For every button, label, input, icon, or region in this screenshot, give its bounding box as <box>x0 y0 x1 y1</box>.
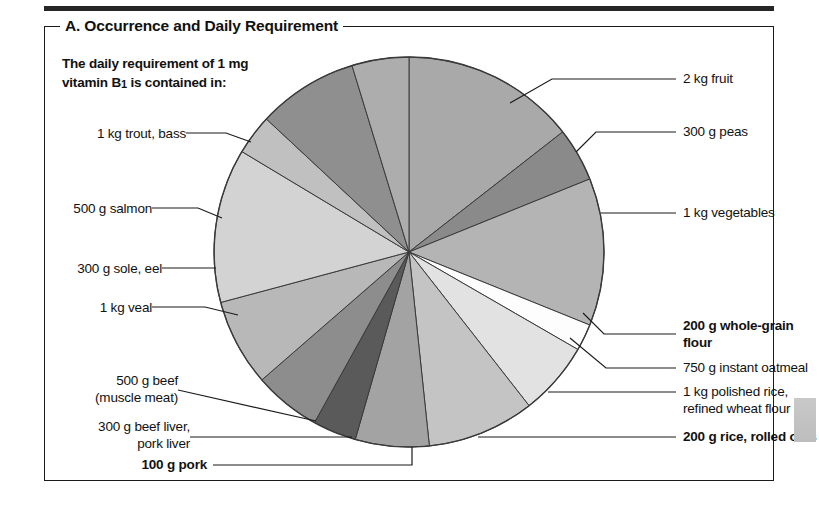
intro-line-2-post: is contained in: <box>127 75 226 90</box>
label-beef-liver-line1: 300 g beef liver, <box>98 419 190 434</box>
label-sole-eel: 300 g sole, eel <box>77 260 162 277</box>
page-edge-thumb-index <box>794 398 816 442</box>
page-top-rule <box>44 6 774 11</box>
label-beef-line1: 500 g beef <box>116 373 178 388</box>
figure-intro-text: The daily requirement of 1 mg vitamin B1… <box>62 54 312 93</box>
label-beef-liver-line2: pork liver <box>137 436 190 451</box>
label-polished-rice-line2: refined wheat flour <box>683 401 790 416</box>
label-whole-grain-line1: 200 g whole-grain <box>683 318 794 333</box>
label-vegetables: 1 kg vegetables <box>683 204 775 221</box>
label-beef-liver: 300 g beef liver, pork liver <box>98 418 190 452</box>
label-salmon: 500 g salmon <box>73 200 152 217</box>
label-whole-grain-line2: flour <box>683 335 712 350</box>
label-veal: 1 kg veal <box>100 299 152 316</box>
label-polished-rice-line1: 1 kg polished rice, <box>683 384 788 399</box>
label-beef-line2: (muscle meat) <box>95 390 178 405</box>
panel-title: A. Occurrence and Daily Requirement <box>60 17 343 35</box>
label-pork: 100 g pork <box>141 456 207 473</box>
label-polished-rice: 1 kg polished rice, refined wheat flour <box>683 383 790 417</box>
label-fruit: 2 kg fruit <box>683 70 733 87</box>
label-whole-grain-flour: 200 g whole-grain flour <box>683 317 794 351</box>
figure-panel <box>44 26 774 481</box>
intro-line-1: The daily requirement of 1 mg <box>62 56 248 71</box>
intro-line-2-pre: vitamin B <box>62 75 121 90</box>
label-trout-bass: 1 kg trout, bass <box>97 125 186 142</box>
label-instant-oatmeal: 750 g instant oatmeal <box>683 359 808 376</box>
label-peas: 300 g peas <box>683 123 748 140</box>
label-beef-muscle-meat: 500 g beef (muscle meat) <box>95 372 178 406</box>
